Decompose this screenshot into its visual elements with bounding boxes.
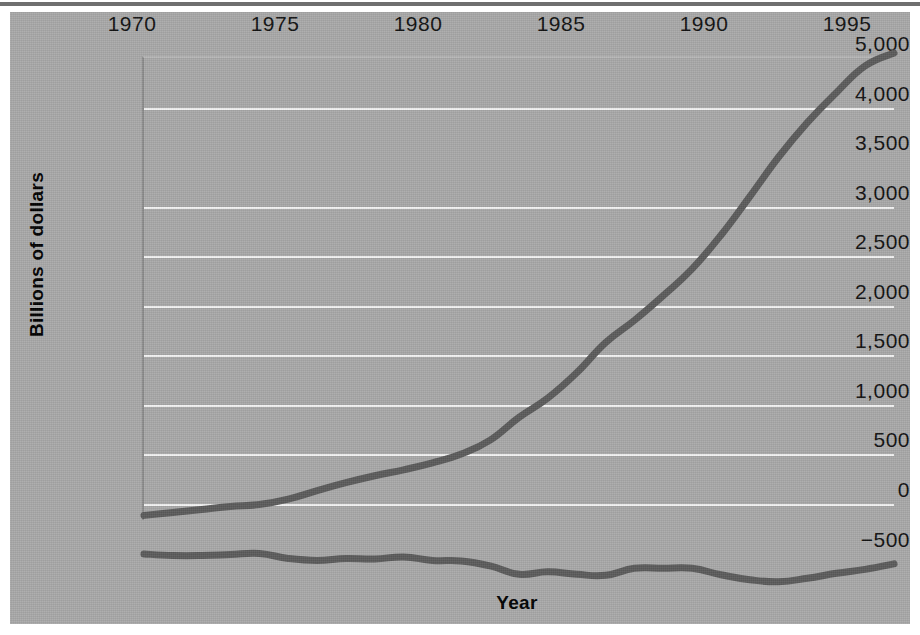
x-tick-label: 1985 xyxy=(516,12,606,36)
series-layer xyxy=(144,58,894,522)
chart-figure: Billions of dollars Year 5,000 4,000 3,5… xyxy=(0,0,920,635)
chart-plate: Billions of dollars Year 5,000 4,000 3,5… xyxy=(10,12,910,624)
x-tick-label: 1975 xyxy=(230,12,320,36)
top-rule-divider xyxy=(0,2,920,6)
x-tick-label: 1990 xyxy=(659,12,749,36)
line-gross-federal-debt xyxy=(144,53,894,515)
x-tick-label: 1970 xyxy=(87,12,177,36)
plot-area xyxy=(142,56,892,520)
x-axis-title: Year xyxy=(142,592,892,614)
y-axis-title: Billions of dollars xyxy=(26,172,50,337)
y-tick-label: −500 xyxy=(800,528,910,552)
x-tick-label: 1995 xyxy=(802,12,892,36)
line-federal-deficit xyxy=(144,553,894,582)
x-tick-label: 1980 xyxy=(373,12,463,36)
